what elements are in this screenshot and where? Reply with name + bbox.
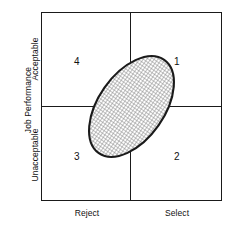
- quadrant-label-bottom-left: 3: [74, 152, 80, 162]
- quadrant-label-bottom-right: 2: [174, 152, 180, 162]
- x-axis-tick-select: Select: [154, 208, 200, 218]
- selection-decision-quadrant-chart: 4 1 3 2 Job Performance Acceptable Unacc…: [0, 0, 237, 231]
- quadrant-label-top-right: 1: [174, 57, 180, 67]
- x-axis-tick-reject: Reject: [64, 208, 110, 218]
- y-axis-tick-acceptable: Acceptable: [30, 19, 40, 99]
- vertical-divider-line: [130, 12, 131, 201]
- y-axis-tick-unacceptable: Unacceptable: [30, 109, 40, 201]
- quadrant-label-top-left: 4: [74, 57, 80, 67]
- horizontal-divider-line: [41, 106, 222, 107]
